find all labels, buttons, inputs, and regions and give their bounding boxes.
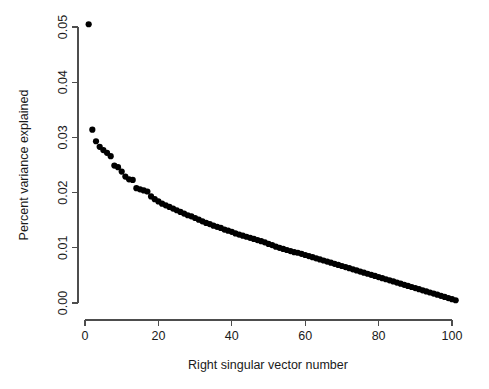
y-axis-tick-label: 0.05 <box>56 15 70 39</box>
x-axis-tick-label: 20 <box>151 329 165 343</box>
x-axis-tick-label: 100 <box>442 329 463 343</box>
data-point <box>86 21 92 27</box>
y-axis-tick-label: 0.02 <box>56 180 70 204</box>
y-axis-tick-label: 0.03 <box>56 125 70 149</box>
scree-plot-figure: 0.000.010.020.030.040.05 020406080100 Ri… <box>0 0 489 389</box>
data-point <box>453 297 459 303</box>
data-point <box>93 138 99 144</box>
data-point <box>119 169 125 175</box>
data-point <box>108 153 114 159</box>
data-point <box>144 188 150 194</box>
plot-background <box>0 0 489 389</box>
y-axis-tick-label: 0.00 <box>56 291 70 315</box>
data-point <box>130 177 136 183</box>
plot-canvas: 0.000.010.020.030.040.05 020406080100 Ri… <box>0 0 489 389</box>
y-axis-title: Percent variance explained <box>17 90 31 241</box>
y-axis-tick-label: 0.04 <box>56 70 70 94</box>
x-axis-tick-label: 0 <box>82 329 89 343</box>
data-point <box>89 127 95 133</box>
y-axis-tick-label: 0.01 <box>56 236 70 260</box>
x-axis-title: Right singular vector number <box>188 358 348 372</box>
x-axis-tick-label: 60 <box>298 329 312 343</box>
x-axis-tick-label: 40 <box>225 329 239 343</box>
x-axis-tick-label: 80 <box>372 329 386 343</box>
